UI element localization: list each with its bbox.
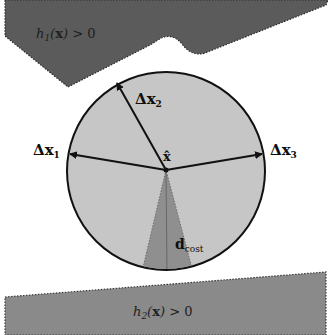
label-sub: 1 [44, 33, 50, 43]
diagram-svg [0, 0, 330, 335]
center-point [164, 168, 169, 173]
label-main: Δx [33, 141, 54, 159]
bottom-region-label: h2(x) > 0 [133, 305, 192, 321]
label-sub: 3 [291, 150, 297, 160]
label-sub: 1 [54, 150, 60, 160]
label-main: Δx [270, 141, 291, 159]
label-arg: x [152, 304, 160, 319]
vector-dx2-label: Δx2 [135, 92, 162, 109]
diagram-canvas: h1(x) > 0 h2(x) > 0 Δx1 Δx2 Δx3 x̂ dcost [0, 0, 330, 335]
label-rel: > 0 [72, 26, 95, 41]
label-main: d [175, 236, 185, 252]
top-region-label: h1(x) > 0 [36, 27, 95, 43]
label-sub: cost [185, 244, 204, 254]
vector-dx1-label: Δx1 [33, 143, 60, 160]
center-point-label: x̂ [163, 150, 171, 163]
label-sub: 2 [141, 311, 147, 321]
label-main: Δx [135, 90, 156, 108]
vector-dx3-label: Δx3 [270, 143, 297, 160]
cost-direction-label: dcost [175, 237, 204, 254]
label-sub: 2 [156, 99, 162, 109]
label-arg: x [55, 26, 63, 41]
label-main: x̂ [163, 149, 171, 164]
label-rel: > 0 [169, 304, 192, 319]
